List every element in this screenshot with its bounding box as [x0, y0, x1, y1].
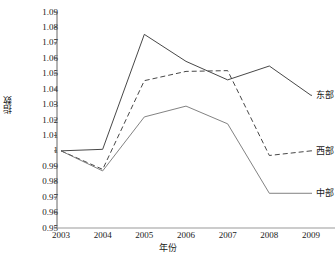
series-line-1: [61, 71, 311, 170]
legend-item-西部[interactable]: 西部: [316, 146, 334, 156]
line-chart: 指数 1.091.081.071.061.051.041.031.021.011…: [0, 0, 335, 262]
legend-item-东部[interactable]: 东部: [316, 90, 334, 100]
data-series-group: [61, 34, 311, 193]
legend-leader-lines: [311, 95, 312, 193]
series-line-0: [61, 34, 311, 150]
legend-item-中部[interactable]: 中部: [316, 188, 334, 198]
plot-area: [0, 0, 335, 262]
x-axis-label: 年份: [0, 243, 335, 253]
axes: [57, 12, 335, 228]
